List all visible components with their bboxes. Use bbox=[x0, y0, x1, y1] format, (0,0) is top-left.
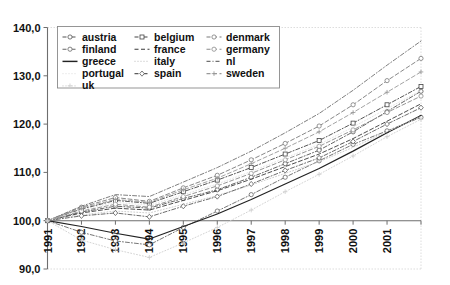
legend-label-france: france bbox=[154, 43, 186, 55]
y-axis-tick-label: 130,0 bbox=[13, 70, 41, 82]
data-point-marker bbox=[385, 110, 389, 114]
series-sweden bbox=[45, 70, 423, 223]
data-point-marker bbox=[283, 152, 287, 156]
data-point-marker bbox=[249, 208, 254, 213]
x-axis-tick-label: 1999 bbox=[313, 229, 325, 253]
series-uk bbox=[45, 117, 423, 260]
data-point-marker bbox=[147, 214, 152, 219]
data-point-marker bbox=[283, 189, 288, 194]
y-axis-tick-label: 110,0 bbox=[14, 166, 41, 178]
legend-label-portugal: portugal bbox=[82, 67, 124, 79]
data-point-marker bbox=[385, 134, 390, 139]
data-point-marker bbox=[113, 239, 117, 243]
y-axis-tick-label: 120,0 bbox=[13, 118, 41, 130]
y-axis-tick-label: 140,0 bbox=[13, 22, 41, 34]
legend-label-spain: spain bbox=[154, 67, 181, 79]
x-axis-tick-label: 1994 bbox=[143, 228, 155, 253]
data-point-marker bbox=[79, 230, 83, 234]
data-point-marker bbox=[147, 243, 151, 247]
data-point-marker bbox=[283, 146, 288, 151]
data-point-marker bbox=[351, 110, 356, 115]
chart-legend: austriafinlandgreeceportugalukbelgiumfra… bbox=[58, 27, 280, 92]
legend-label-uk: uk bbox=[82, 79, 94, 91]
data-point-marker bbox=[385, 79, 389, 83]
data-point-marker bbox=[79, 213, 84, 218]
data-point-marker bbox=[351, 154, 356, 159]
legend-label-belgium: belgium bbox=[154, 31, 194, 43]
x-axis-tick-label: 2000 bbox=[347, 229, 359, 253]
series-spain bbox=[45, 105, 423, 223]
data-point-marker bbox=[215, 209, 219, 213]
data-point-marker bbox=[385, 90, 390, 95]
data-point-marker bbox=[385, 122, 390, 127]
data-point-marker bbox=[140, 35, 144, 39]
data-point-marker bbox=[249, 193, 253, 197]
x-axis-tick-label: 2001 bbox=[381, 229, 393, 253]
legend-label-denmark: denmark bbox=[226, 31, 270, 43]
data-point-marker bbox=[419, 70, 424, 75]
x-axis-tick-label: 1998 bbox=[279, 229, 291, 253]
legend-label-greece: greece bbox=[82, 55, 116, 67]
data-point-marker bbox=[68, 47, 72, 51]
legend-label-nl: nl bbox=[226, 55, 235, 67]
x-axis-tick-label: 1991 bbox=[42, 229, 54, 253]
legend-label-finland: finland bbox=[82, 43, 116, 55]
data-point-marker bbox=[351, 103, 355, 107]
x-axis-tick-label: 1996 bbox=[211, 229, 223, 253]
data-point-marker bbox=[283, 141, 287, 145]
data-point-marker bbox=[317, 139, 321, 143]
data-point-marker bbox=[212, 47, 216, 51]
data-point-marker bbox=[249, 166, 253, 170]
legend-label-italy: italy bbox=[154, 55, 175, 67]
y-axis-tick-labels: 90,0100,0110,0120,0130,0140,0 bbox=[13, 22, 41, 276]
data-point-marker bbox=[317, 124, 321, 128]
y-axis-tick-label: 90,0 bbox=[19, 263, 40, 275]
data-point-marker bbox=[283, 168, 288, 173]
series-line-finland bbox=[48, 117, 422, 245]
data-point-marker bbox=[68, 35, 72, 39]
data-point-marker bbox=[212, 35, 216, 39]
data-point-marker bbox=[147, 205, 151, 209]
data-point-marker bbox=[147, 255, 152, 260]
data-point-marker bbox=[351, 128, 355, 132]
series-belgium bbox=[46, 84, 424, 222]
data-point-marker bbox=[283, 175, 287, 179]
data-point-marker bbox=[419, 105, 424, 110]
line-chart: 90,0100,0110,0120,0130,0140,0 1991199219… bbox=[0, 0, 450, 285]
data-point-marker bbox=[419, 56, 423, 60]
data-point-marker bbox=[419, 89, 423, 93]
y-axis-tick-label: 100,0 bbox=[13, 215, 41, 227]
data-point-marker bbox=[351, 121, 355, 125]
x-axis-tick-labels: 1991199219931994199519961997199819992000… bbox=[42, 228, 394, 253]
data-point-marker bbox=[317, 172, 322, 177]
data-point-marker bbox=[385, 103, 389, 107]
data-point-marker bbox=[419, 84, 423, 88]
legend-label-germany: germany bbox=[226, 43, 270, 55]
data-point-marker bbox=[317, 130, 322, 135]
legend-label-sweden: sweden bbox=[226, 67, 265, 79]
data-point-marker bbox=[249, 181, 254, 186]
data-point-marker bbox=[419, 94, 423, 98]
data-point-marker bbox=[249, 158, 253, 162]
series-line-germany bbox=[48, 96, 422, 221]
legend-label-austria: austria bbox=[82, 31, 117, 43]
x-axis-tick-label: 1997 bbox=[245, 229, 257, 253]
